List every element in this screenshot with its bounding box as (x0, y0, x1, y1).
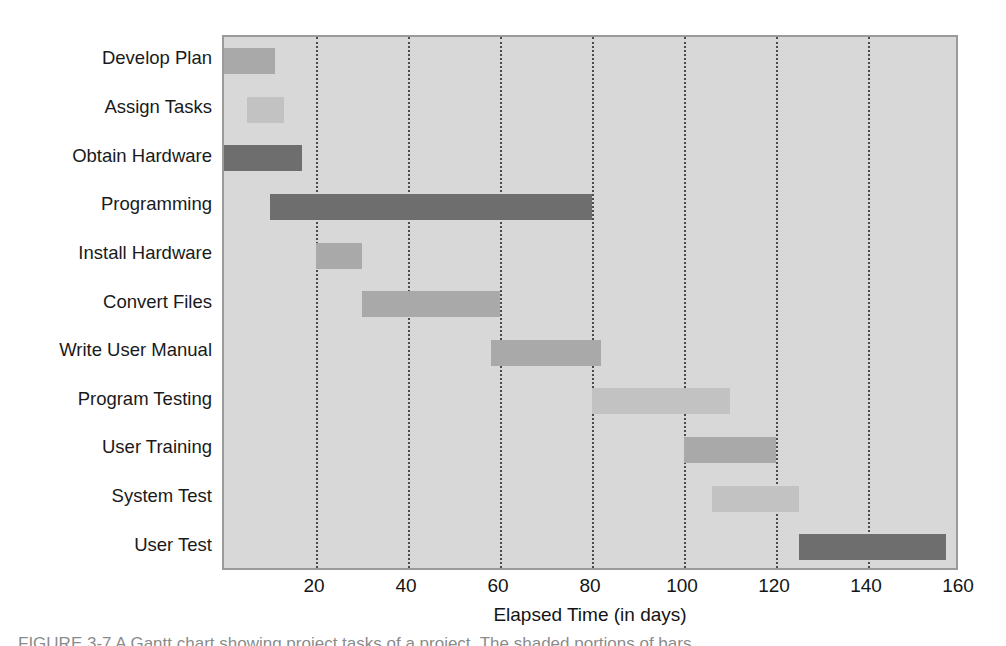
gantt-bar (592, 388, 730, 414)
x-axis-tick-label: 20 (303, 575, 324, 597)
task-row (224, 280, 956, 329)
y-axis-label: System Test (7, 485, 212, 507)
y-axis-label: Program Testing (7, 388, 212, 410)
gantt-bar (270, 194, 592, 220)
x-axis-tick-label: 140 (850, 575, 882, 597)
gantt-chart-figure: Develop PlanAssign TasksObtain HardwareP… (0, 0, 1006, 646)
task-row (224, 37, 956, 86)
x-axis-tick-labels: 20406080100120140160 (0, 575, 1006, 603)
y-axis-label: Convert Files (7, 291, 212, 313)
y-axis-label: Assign Tasks (7, 96, 212, 118)
x-axis-tick-label: 120 (758, 575, 790, 597)
y-axis-label: Develop Plan (7, 47, 212, 69)
gantt-bar (684, 437, 776, 463)
gantt-bar (712, 486, 799, 512)
y-axis-label: Obtain Hardware (7, 145, 212, 167)
gantt-bar (362, 291, 500, 317)
gantt-bar (799, 534, 946, 560)
task-row (224, 232, 956, 281)
task-row (224, 134, 956, 183)
y-axis-label: Install Hardware (7, 242, 212, 264)
gantt-bar (247, 97, 284, 123)
x-axis-tick-label: 40 (395, 575, 416, 597)
y-axis-label: Write User Manual (7, 339, 212, 361)
gantt-bar (224, 48, 275, 74)
task-row (224, 377, 956, 426)
x-axis-tick-label: 60 (487, 575, 508, 597)
x-axis-tick-label: 160 (942, 575, 974, 597)
y-axis-label: Programming (7, 193, 212, 215)
plot-area (222, 35, 958, 570)
y-axis-label: User Test (7, 534, 212, 556)
task-row (224, 329, 956, 378)
gantt-bar (224, 145, 302, 171)
y-axis-labels: Develop PlanAssign TasksObtain HardwareP… (0, 35, 212, 570)
y-axis-label: User Training (7, 436, 212, 458)
gantt-bar (491, 340, 601, 366)
task-row (224, 86, 956, 135)
task-row (224, 426, 956, 475)
x-axis-title: Elapsed Time (in days) (222, 604, 958, 626)
gantt-bar (316, 243, 362, 269)
figure-caption: FIGURE 3-7 A Gantt chart showing project… (18, 634, 988, 646)
task-row (224, 183, 956, 232)
task-row (224, 523, 956, 572)
x-axis-tick-label: 80 (579, 575, 600, 597)
task-row (224, 475, 956, 524)
x-axis-tick-label: 100 (666, 575, 698, 597)
